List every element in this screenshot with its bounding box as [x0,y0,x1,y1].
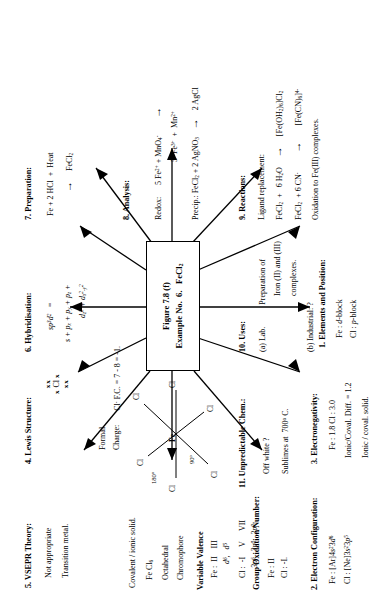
diagram-page: Figure 7.8 (f) Example No. 6. FeCl2 1. E… [0,0,386,600]
center-node: Figure 7.8 (f) Example No. 6. FeCl2 [146,241,200,371]
figure-title: Figure 7.8 (f) [160,282,173,330]
concept-map-canvas: Figure 7.8 (f) Example No. 6. FeCl2 1. E… [0,0,386,600]
figure-example: Example No. 6. FeCl2 [173,264,186,349]
